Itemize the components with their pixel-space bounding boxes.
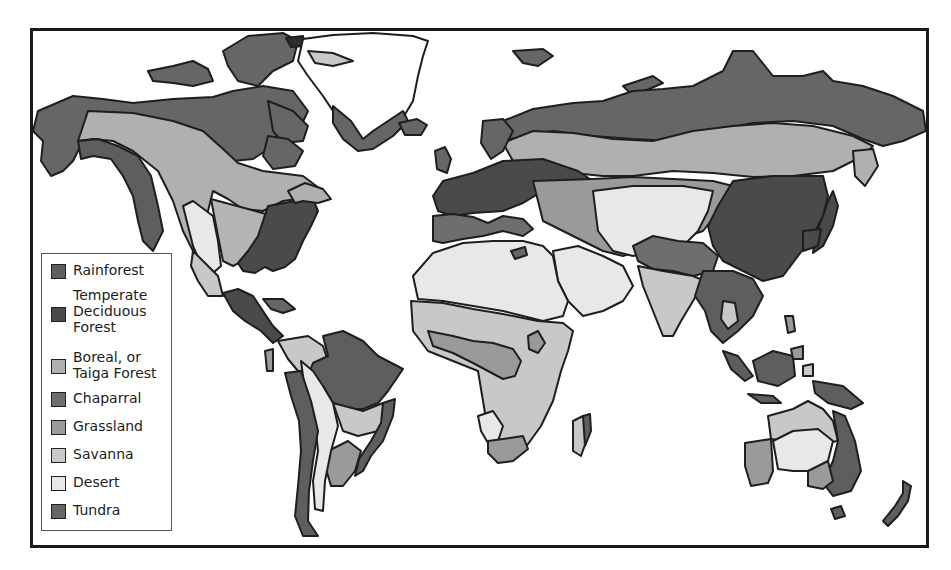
legend-label: Grassland bbox=[73, 418, 143, 434]
savanna-swatch bbox=[51, 448, 66, 463]
rainforest-java bbox=[748, 394, 781, 403]
chaparral-south-africa bbox=[488, 436, 528, 463]
tundra-swatch bbox=[51, 504, 66, 519]
rainforest-britain bbox=[435, 147, 451, 173]
grassland-philippines bbox=[785, 316, 795, 333]
tundra-svalbard bbox=[513, 49, 553, 66]
rainforest-caribbean bbox=[263, 299, 295, 313]
legend-label: Tundra bbox=[73, 502, 120, 518]
legend-label: Savanna bbox=[73, 446, 134, 462]
savanna-india bbox=[638, 266, 705, 336]
rainforest-central-america bbox=[223, 289, 283, 343]
grassland-australia-west bbox=[745, 439, 773, 486]
legend-label: Temperate Deciduous Forest bbox=[73, 287, 147, 335]
legend-label: Rainforest bbox=[73, 262, 144, 278]
legend-label: Boreal, or Taiga Forest bbox=[73, 349, 157, 381]
savanna-moluccas bbox=[803, 364, 813, 376]
chaparral-swatch bbox=[51, 392, 66, 407]
rainforest-new-guinea bbox=[813, 381, 863, 409]
boreal-swatch bbox=[51, 359, 66, 374]
rainforest-new-zealand bbox=[883, 481, 911, 526]
rainforest-madagascar bbox=[583, 414, 591, 446]
desert-swatch bbox=[51, 476, 66, 491]
chaparral-mediterranean bbox=[433, 214, 533, 243]
temperate-deciduous-swatch bbox=[51, 307, 66, 322]
legend-label: Desert bbox=[73, 474, 120, 490]
deciduous-east-asia bbox=[708, 176, 828, 281]
grassland-swatch bbox=[51, 420, 66, 435]
grassland-andes-west bbox=[265, 349, 273, 371]
boreal-kamchatka bbox=[853, 149, 878, 186]
legend-label: Chaparral bbox=[73, 390, 141, 406]
rainforest-borneo bbox=[753, 351, 795, 386]
tundra-arctic-islands bbox=[148, 61, 213, 86]
rainforest-sumatra bbox=[723, 351, 753, 381]
tundra-iceland bbox=[399, 119, 427, 135]
grassland-sulawesi bbox=[791, 346, 803, 359]
rainforest-tasmania bbox=[831, 506, 845, 519]
legend: Rainforest Temperate Deciduous Forest Bo… bbox=[41, 253, 172, 531]
rainforest-swatch bbox=[51, 264, 66, 279]
